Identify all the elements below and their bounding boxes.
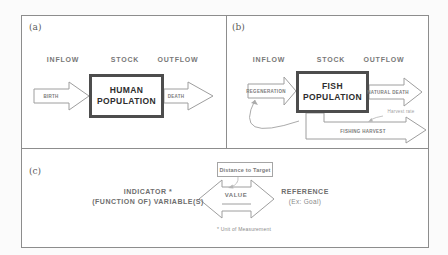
regeneration-arrow-label: REGENERATION bbox=[246, 89, 286, 94]
panel-a-inflow-header: INFLOW bbox=[47, 56, 79, 63]
fishing-harvest-arrow-label: FISHING HARVEST bbox=[340, 129, 385, 134]
value-label: VALUE bbox=[225, 192, 247, 198]
panel-divider-vertical bbox=[226, 16, 227, 148]
panel-b-stock-header: STOCK bbox=[317, 56, 345, 63]
human-population-stock-box: HUMAN POPULATION bbox=[89, 74, 164, 118]
indicator-text-block: INDICATOR * (FUNCTION OF) VARIABLE(S) bbox=[92, 187, 204, 206]
panel-b-label: (b) bbox=[232, 22, 245, 32]
indicator-line1: INDICATOR * bbox=[92, 187, 204, 197]
birth-inflow-arrow bbox=[34, 82, 89, 110]
figure-frame: (a) INFLOW STOCK OUTFLOW BIRTH HUMAN POP… bbox=[21, 15, 429, 248]
distance-to-target-box: Distance to Target bbox=[217, 162, 273, 177]
panel-a-label: (a) bbox=[29, 22, 41, 32]
panel-divider-horizontal bbox=[22, 148, 428, 149]
harvest-rate-label: Harvest rate bbox=[388, 109, 415, 114]
fish-population-stock-box: FISH POPULATION bbox=[296, 71, 369, 113]
reference-text-block: REFERENCE (Ex: Goal) bbox=[281, 187, 329, 206]
fish-population-stock-label: FISH POPULATION bbox=[303, 81, 362, 103]
birth-arrow-label: BIRTH bbox=[43, 94, 58, 99]
value-double-arrow bbox=[199, 180, 274, 218]
panel-b-inflow-header: INFLOW bbox=[253, 56, 285, 63]
death-arrow-label: DEATH bbox=[168, 94, 185, 99]
unit-of-measurement-footnote: * Unit of Measurement bbox=[217, 226, 271, 232]
reference-line1: REFERENCE bbox=[281, 187, 329, 197]
scanned-figure: (a) INFLOW STOCK OUTFLOW BIRTH HUMAN POP… bbox=[0, 0, 448, 255]
panel-c-label: (c) bbox=[29, 166, 41, 176]
reference-line2: (Ex: Goal) bbox=[281, 196, 329, 206]
feedback-arrowhead-icon bbox=[251, 100, 258, 105]
human-population-stock-label: HUMAN POPULATION bbox=[97, 85, 156, 107]
distance-to-target-label: Distance to Target bbox=[219, 167, 270, 173]
panel-b-outflow-header: OUTFLOW bbox=[364, 56, 405, 63]
panel-a-stock-header: STOCK bbox=[111, 56, 139, 63]
natural-death-arrow-label: NATURAL DEATH bbox=[367, 90, 409, 95]
indicator-line2: (FUNCTION OF) VARIABLE(S) bbox=[92, 196, 204, 206]
panel-a-outflow-header: OUTFLOW bbox=[158, 56, 199, 63]
